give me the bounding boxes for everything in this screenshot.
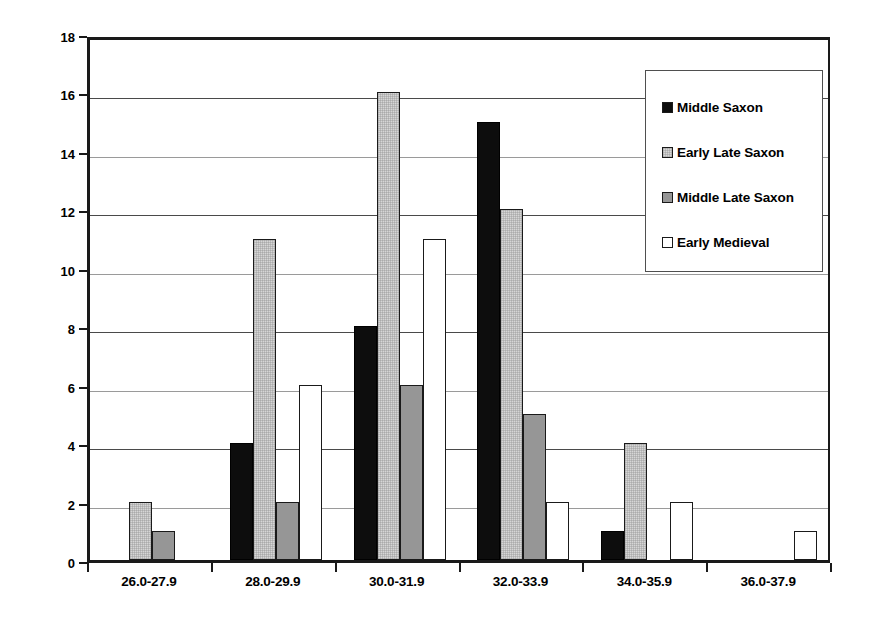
legend-swatch-icon [662, 147, 673, 158]
bar [624, 443, 647, 560]
bar [299, 385, 322, 560]
bar-chart-figure: Number of Teeth 024681012141618 26.0-27.… [0, 0, 870, 630]
legend-item[interactable]: Middle Late Saxon [662, 175, 822, 220]
y-axis-tick-label: 16 [35, 88, 75, 103]
y-axis-tick-mark [79, 211, 87, 213]
y-axis-tick-label: 10 [35, 263, 75, 278]
bar [601, 531, 624, 560]
bar [276, 502, 299, 560]
bar [523, 414, 546, 560]
y-axis-tick-label: 12 [35, 205, 75, 220]
chart-legend: Middle SaxonEarly Late SaxonMiddle Late … [645, 70, 823, 272]
legend-swatch-icon [662, 102, 673, 113]
legend-label: Early Medieval [677, 235, 769, 250]
bar [546, 502, 569, 560]
bar [253, 239, 276, 560]
y-axis-tick-mark [79, 153, 87, 155]
x-axis-tick-mark [335, 563, 337, 572]
y-axis-tick-mark [79, 504, 87, 506]
bar [377, 92, 400, 560]
bar [423, 239, 446, 560]
bar [129, 502, 152, 560]
bar [354, 326, 377, 560]
legend-item[interactable]: Middle Saxon [662, 85, 822, 130]
bar [794, 531, 817, 560]
y-axis-tick-mark [79, 270, 87, 272]
bar [400, 385, 423, 560]
x-axis-tick-mark [706, 563, 708, 572]
x-axis-tick-mark [582, 563, 584, 572]
legend-item[interactable]: Early Late Saxon [662, 130, 822, 175]
y-axis-tick-mark [79, 562, 87, 564]
y-axis-tick-label: 18 [35, 30, 75, 45]
legend-swatch-icon [662, 237, 673, 248]
legend-label: Middle Saxon [677, 100, 763, 115]
y-axis-tick-label: 4 [35, 439, 75, 454]
y-axis-tick-label: 8 [35, 322, 75, 337]
y-axis-tick-label: 14 [35, 146, 75, 161]
legend-item[interactable]: Early Medieval [662, 220, 822, 265]
bar [152, 531, 175, 560]
bar [477, 122, 500, 560]
bar [670, 502, 693, 560]
legend-label: Early Late Saxon [677, 145, 784, 160]
y-axis-tick-mark [79, 387, 87, 389]
y-axis-tick-mark [79, 94, 87, 96]
y-axis-tick-label: 6 [35, 380, 75, 395]
y-axis-tick-label: 0 [35, 556, 75, 571]
bar [230, 443, 253, 560]
x-axis-tick-mark [87, 563, 89, 572]
y-axis-tick-mark [79, 445, 87, 447]
x-axis-category-label: 36.0-37.9 [693, 574, 843, 589]
x-axis-tick-mark [459, 563, 461, 572]
y-axis-tick-mark [79, 328, 87, 330]
x-axis-tick-mark [830, 563, 832, 572]
x-axis-tick-mark [211, 563, 213, 572]
legend-swatch-icon [662, 192, 673, 203]
bar [500, 209, 523, 560]
legend-label: Middle Late Saxon [677, 190, 794, 205]
y-axis-tick-mark [79, 36, 87, 38]
y-axis-tick-label: 2 [35, 497, 75, 512]
